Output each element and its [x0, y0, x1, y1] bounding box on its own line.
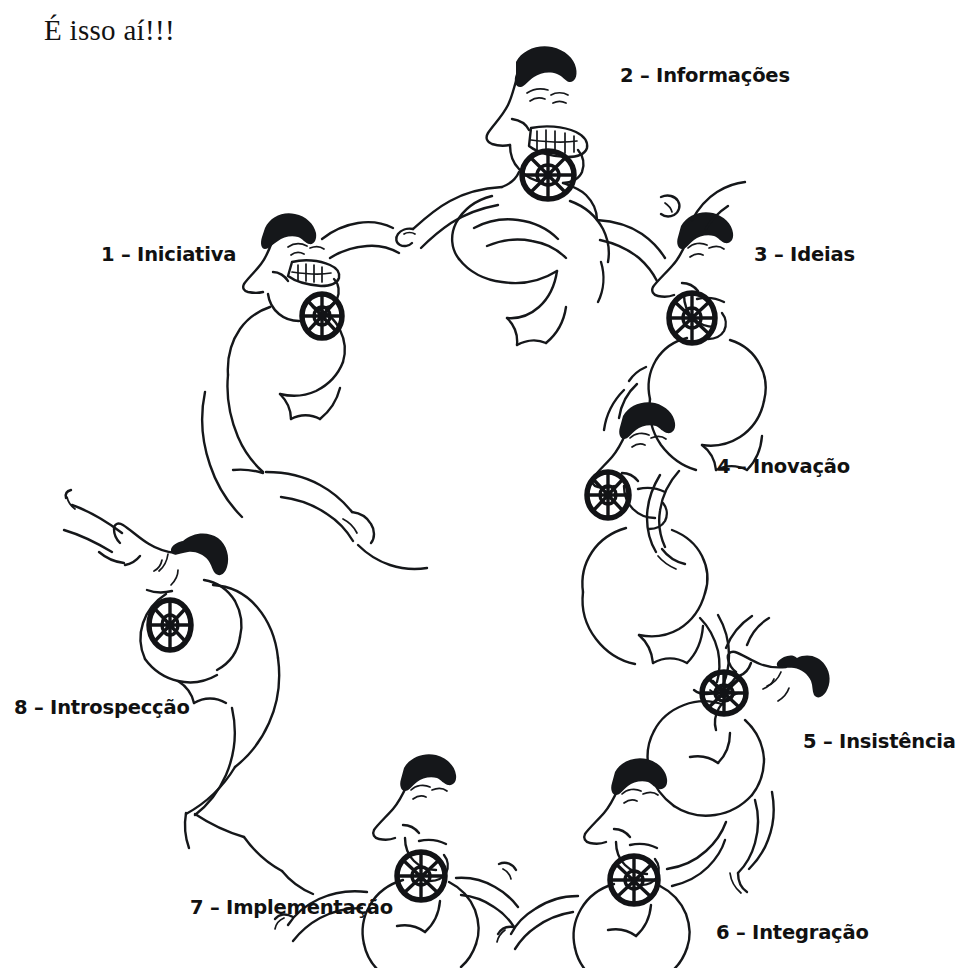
figure-7-implementacao [275, 754, 518, 968]
figure-2-informacoes [396, 46, 679, 345]
step-label-2-informacoes: 2 – Informações [620, 64, 790, 87]
chest-emblem-wheel-1 [302, 294, 342, 338]
chest-emblem-wheel-8 [149, 600, 191, 650]
step-label-7-implementacao: 7 – Implementação [190, 896, 393, 919]
step-label-1-iniciativa: 1 – Iniciativa [101, 243, 236, 266]
figure-1-iniciativa [202, 213, 427, 569]
figure-8-introspeccao [64, 490, 313, 894]
chest-emblem-wheel-7 [397, 852, 445, 900]
figure-4-inovacao [582, 367, 733, 699]
step-label-6-integracao: 6 – Integração [716, 921, 869, 944]
step-label-8-introspeccao: 8 – Introspecção [14, 696, 190, 719]
chest-emblem-wheel-2 [522, 151, 574, 199]
chest-emblem-wheel-4 [587, 472, 629, 518]
step-label-5-insistencia: 5 – Insistência [803, 730, 956, 753]
step-label-3-ideias: 3 – Ideias [754, 243, 855, 266]
figure-6-integracao [497, 758, 726, 968]
figure-3-ideias [647, 182, 766, 569]
chest-emblem-wheel-6 [610, 856, 658, 904]
step-label-4-inovacao: 4 – Inovação [717, 455, 850, 478]
chest-emblem-wheel-5 [702, 672, 746, 714]
chest-emblem-wheel-3 [669, 293, 715, 343]
